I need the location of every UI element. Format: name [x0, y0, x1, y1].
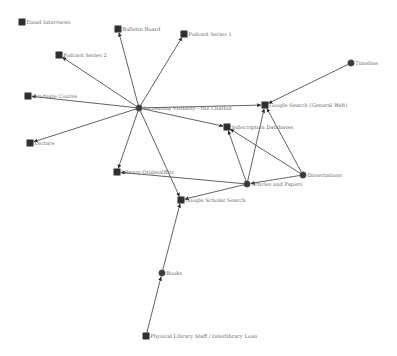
circle-node-icon[interactable]	[300, 172, 306, 178]
edge-hub-to-scholar	[140, 111, 179, 197]
node-label: Graduate Course	[32, 93, 77, 99]
node-label: Increasing Visibility - the Chatbot	[143, 105, 233, 112]
square-node-icon[interactable]	[181, 31, 187, 37]
node-library[interactable]: Library OriginalBits	[114, 169, 174, 176]
node-label: Library OriginalBits	[121, 169, 174, 176]
node-label: Dissertations	[307, 172, 342, 178]
node-google[interactable]: Google Search (General Web)	[262, 102, 347, 109]
edge-hub-to-subdb	[142, 109, 223, 127]
square-node-icon[interactable]	[25, 93, 31, 99]
edge-hub-to-bulletin	[119, 33, 138, 105]
node-subdb[interactable]: Subscription Databases	[224, 124, 294, 131]
square-node-icon[interactable]	[19, 19, 25, 25]
edge-timeline-to-google	[268, 64, 348, 103]
edge-books-to-scholar	[163, 204, 180, 270]
edge-hub-to-library	[118, 111, 138, 168]
node-email[interactable]: Email Interviews	[19, 19, 71, 25]
edge-staff-to-books	[147, 277, 161, 333]
node-grad[interactable]: Graduate Course	[25, 93, 77, 99]
node-podcast2[interactable]: Podcast Series 2	[56, 52, 107, 58]
square-node-icon[interactable]	[115, 26, 121, 32]
square-node-icon[interactable]	[178, 197, 184, 203]
network-graph: Email InterviewsBulletin BoardPodcast Se…	[0, 0, 397, 356]
node-label: Email Interviews	[26, 19, 71, 25]
node-bulletin[interactable]: Bulletin Board	[115, 26, 161, 32]
circle-node-icon[interactable]	[159, 270, 165, 276]
square-node-icon[interactable]	[114, 169, 120, 175]
node-label: Google Search (General Web)	[269, 102, 347, 109]
node-diss[interactable]: Dissertations	[300, 172, 342, 178]
square-node-icon[interactable]	[262, 102, 268, 108]
edge-hub-to-podcast2	[62, 57, 136, 106]
node-books[interactable]: Books	[159, 270, 183, 276]
node-label: Bulletin Board	[122, 26, 161, 32]
circle-node-icon[interactable]	[136, 105, 142, 111]
node-lecture[interactable]: Lecture	[27, 140, 55, 146]
node-label: Subscription Databases	[231, 124, 294, 131]
node-timeline[interactable]: Timeline	[348, 60, 378, 66]
circle-node-icon[interactable]	[244, 181, 250, 187]
edge-diss-to-google	[267, 108, 302, 172]
edge-hub-to-lecture	[34, 109, 136, 142]
edge-articles-to-subdb	[228, 130, 246, 180]
node-label: Lecture	[34, 140, 54, 146]
node-label: Physical Library Staff / Interlibrary Lo…	[150, 333, 258, 340]
node-label: Google Scholar Search	[185, 197, 246, 204]
node-staff[interactable]: Physical Library Staff / Interlibrary Lo…	[143, 333, 258, 340]
node-label: Books	[166, 270, 182, 276]
edge-hub-to-podcast1	[141, 37, 182, 105]
node-label: Podcast Series 1	[188, 31, 232, 37]
edge-articles-to-google	[248, 109, 264, 181]
square-node-icon[interactable]	[143, 333, 149, 339]
node-podcast1[interactable]: Podcast Series 1	[181, 31, 232, 37]
node-label: Timeline	[355, 60, 378, 66]
square-node-icon[interactable]	[224, 124, 230, 130]
node-articles[interactable]: Articles and Papers	[244, 181, 303, 188]
node-hub[interactable]: Increasing Visibility - the Chatbot	[136, 105, 233, 112]
node-label: Articles and Papers	[250, 181, 303, 188]
square-node-icon[interactable]	[56, 52, 62, 58]
node-label: Podcast Series 2	[63, 52, 107, 58]
square-node-icon[interactable]	[27, 140, 33, 146]
node-scholar[interactable]: Google Scholar Search	[178, 197, 246, 204]
circle-node-icon[interactable]	[348, 60, 354, 66]
